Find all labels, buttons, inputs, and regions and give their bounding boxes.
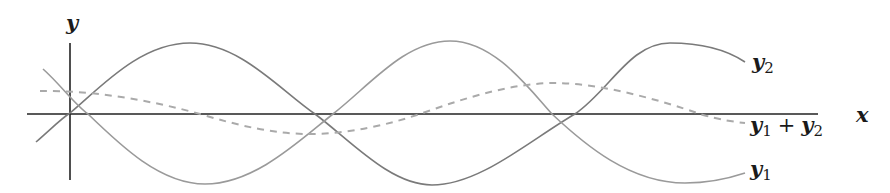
label-y2: y2 <box>752 51 774 76</box>
curve-sum <box>40 83 745 134</box>
label-y1: y1 <box>750 158 772 183</box>
y-axis-label: y <box>66 12 78 33</box>
curve-y1 <box>43 41 745 184</box>
x-axis-label: x <box>856 104 869 125</box>
label-sum: y1+y2 <box>750 114 823 139</box>
wave-superposition-figure: y x y2 y1+y2 y1 <box>0 0 890 193</box>
